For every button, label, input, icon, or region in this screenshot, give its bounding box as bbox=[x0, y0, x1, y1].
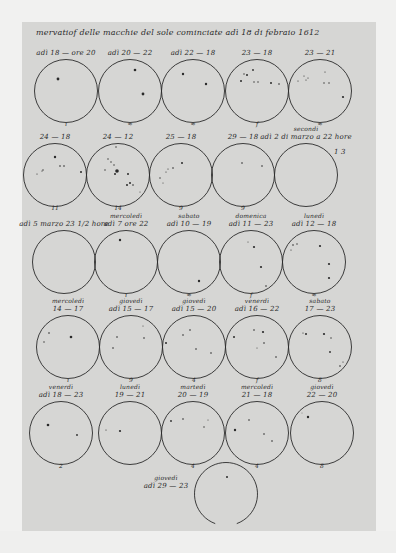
sunspot bbox=[302, 413, 303, 414]
sun-disc-observation: ≈ bbox=[158, 231, 221, 298]
disc-bottom-mark: 9 bbox=[129, 376, 133, 383]
sunspot bbox=[159, 177, 160, 178]
sunspot bbox=[115, 146, 116, 147]
sun-disc-observation: 2 bbox=[30, 402, 93, 469]
sunspot bbox=[182, 334, 184, 336]
sunspot bbox=[257, 348, 258, 349]
sunspot bbox=[342, 361, 343, 362]
observation-date-label: 17 — 23 bbox=[305, 305, 336, 313]
sunspot bbox=[328, 277, 330, 279]
observation-date-label: 29 — 18 bbox=[228, 133, 259, 141]
sunspot bbox=[36, 173, 37, 174]
sunspot bbox=[119, 239, 121, 241]
observation-date-label: adì 2 di marzo a 22 hore bbox=[260, 133, 352, 141]
sunspot bbox=[112, 347, 114, 349]
observation-day-label: domenica bbox=[235, 212, 266, 220]
sunspot bbox=[246, 74, 248, 76]
observation-day-label: giovedì bbox=[182, 297, 205, 305]
observation-date-label: adì 29 — 23 bbox=[144, 482, 189, 490]
observation-date-label: 24 — 12 bbox=[103, 133, 134, 141]
observation-date-label: adì 15 — 20 bbox=[172, 305, 217, 313]
observation-date-label: adì 10 — 19 bbox=[167, 220, 212, 228]
disc-bottom-mark: ≈ bbox=[190, 120, 195, 127]
disc-bottom-mark: ı bbox=[67, 376, 69, 383]
observation-day-label: venerdì bbox=[245, 297, 269, 305]
sunspot bbox=[119, 430, 121, 432]
sunspot bbox=[339, 365, 341, 367]
sunspot bbox=[129, 182, 131, 184]
observation-date-label: 24 — 18 bbox=[40, 133, 71, 141]
sun-disc-observation: f bbox=[220, 231, 283, 299]
observation-day-label: giovedì bbox=[310, 383, 333, 391]
disc-bottom-mark: 4 bbox=[254, 462, 259, 469]
sunspot bbox=[107, 158, 108, 159]
sunspot bbox=[172, 167, 174, 169]
sunspot-observations-drawing: ı≈≈f≈111499ı≈f≈ı94f82448 bbox=[0, 0, 396, 553]
sunspot bbox=[182, 418, 184, 420]
observation-date-label: 25 — 18 bbox=[166, 133, 197, 141]
sunspot bbox=[240, 80, 242, 82]
observation-date-label: 21 — 18 bbox=[242, 391, 273, 399]
observation-day-label: lunedì bbox=[304, 212, 324, 220]
sunspot bbox=[328, 82, 329, 83]
sun-disc-observation: 4 bbox=[162, 402, 225, 469]
observation-date-label: 14 — 17 bbox=[53, 305, 84, 313]
sun-disc-observation: ≈ bbox=[283, 231, 346, 298]
sunspot bbox=[165, 342, 167, 344]
observation-day-label: sabato bbox=[178, 212, 199, 220]
observation-date-label: adì 18 — 23 bbox=[39, 391, 84, 399]
sunspot bbox=[113, 164, 114, 165]
observation-date-label: adì 12 — 18 bbox=[292, 220, 337, 228]
observation-day-label: venerdì bbox=[49, 383, 73, 391]
observation-day-label: lunedì bbox=[120, 383, 140, 391]
observation-date-label: 20 — 19 bbox=[178, 391, 209, 399]
sunspot bbox=[253, 81, 254, 82]
sunspot bbox=[134, 69, 137, 72]
sun-disc-observation: 9 bbox=[150, 144, 213, 211]
disc-bottom-mark: 14 bbox=[114, 204, 122, 211]
sun-disc-observation bbox=[275, 144, 338, 207]
sunspot bbox=[263, 342, 265, 344]
sun-disc-observation: 4 bbox=[226, 402, 289, 469]
sunspot bbox=[330, 337, 331, 338]
sunspot bbox=[307, 416, 309, 418]
observation-date-label: adì 5 marzo 23 1/2 hore bbox=[19, 220, 109, 228]
sunspot bbox=[127, 173, 129, 175]
sun-disc-observation: 4 bbox=[163, 316, 226, 383]
observation-day-label: secondi bbox=[294, 125, 319, 133]
sunspot bbox=[181, 162, 183, 164]
disc-bottom-mark: 11 bbox=[51, 204, 59, 211]
sunspot bbox=[270, 82, 272, 84]
observation-date-label: adì 16 — 22 bbox=[235, 305, 280, 313]
sunspot bbox=[248, 242, 249, 243]
observation-day-label: mercoledì bbox=[110, 212, 142, 220]
sunspot bbox=[63, 165, 65, 167]
sunspot bbox=[303, 75, 304, 76]
sunspot bbox=[142, 93, 145, 96]
disc-bottom-mark: 8 bbox=[318, 376, 322, 383]
sunspot bbox=[319, 245, 321, 247]
sunspot bbox=[292, 244, 294, 246]
sunspot bbox=[234, 429, 236, 431]
document-title: mervatiof delle macchie del sole cominci… bbox=[36, 29, 320, 37]
sunspot bbox=[233, 336, 235, 338]
sunspot bbox=[329, 351, 331, 353]
sunspot bbox=[261, 165, 263, 167]
sunspot bbox=[76, 434, 78, 436]
sun-disc-observation: ı bbox=[37, 316, 100, 383]
sunspot bbox=[265, 285, 267, 287]
sunspot bbox=[140, 192, 141, 193]
sunspot bbox=[271, 440, 273, 442]
sunspot bbox=[182, 73, 184, 75]
sunspot bbox=[260, 266, 262, 268]
sunspot bbox=[307, 77, 308, 78]
sunspot bbox=[290, 249, 291, 250]
sunspot bbox=[275, 356, 277, 358]
observation-day-label: martedì bbox=[180, 383, 205, 391]
sunspot bbox=[165, 171, 166, 172]
sunspot bbox=[54, 156, 56, 158]
sun-disc-observation: ≈ bbox=[99, 60, 162, 127]
sun-disc-observation: 8 bbox=[289, 316, 352, 383]
sun-disc-observation: 14 bbox=[87, 144, 150, 211]
sunspot bbox=[253, 329, 255, 331]
